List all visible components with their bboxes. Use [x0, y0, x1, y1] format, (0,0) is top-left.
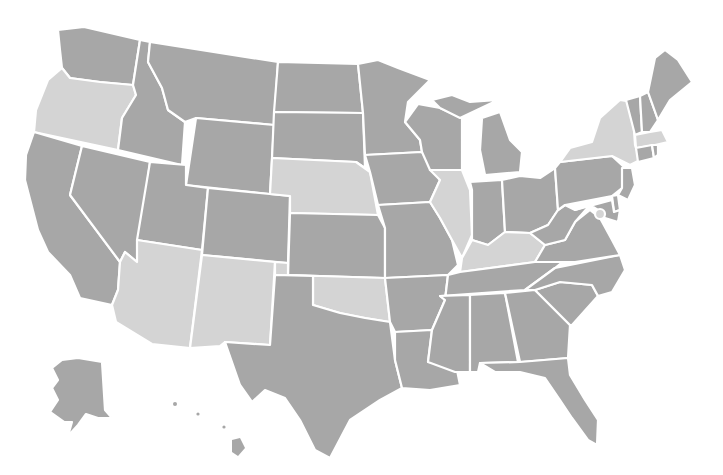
state-ri[interactable]: [652, 145, 658, 158]
state-ks[interactable]: [288, 213, 385, 278]
us-states-map: [0, 0, 723, 475]
state-dc-marker[interactable]: [595, 209, 605, 219]
state-mi[interactable]: [480, 112, 522, 175]
state-nd[interactable]: [274, 62, 363, 113]
state-fl[interactable]: [480, 358, 598, 445]
state-az[interactable]: [112, 240, 202, 348]
state-hi[interactable]: [232, 438, 245, 456]
state-wy[interactable]: [186, 118, 274, 194]
state-wa[interactable]: [58, 27, 140, 85]
state-me[interactable]: [648, 50, 692, 120]
state-nm[interactable]: [190, 255, 275, 348]
state-co[interactable]: [202, 188, 290, 263]
state-hi-island-2[interactable]: [196, 412, 199, 415]
state-hi-island-1[interactable]: [173, 402, 177, 406]
state-hi-island-3[interactable]: [222, 425, 225, 428]
state-ak[interactable]: [50, 358, 112, 436]
